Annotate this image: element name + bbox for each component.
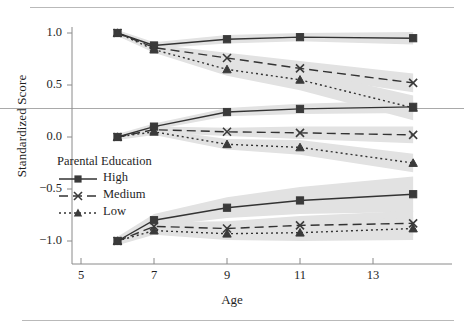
- legend-label: Medium: [103, 187, 145, 202]
- y-tick-label: 1.0: [22, 25, 62, 40]
- x-tick-label: 11: [280, 268, 320, 283]
- x-tick-label: 7: [134, 268, 174, 283]
- legend-label: Low: [103, 204, 126, 219]
- marker-square: [410, 103, 417, 110]
- figure: Standardized Score Age 1.00.50.0−0.5−1.0…: [0, 0, 464, 330]
- legend-marker-square: [74, 175, 81, 182]
- marker-square: [410, 35, 417, 42]
- legend-key-square-icon: [57, 172, 101, 186]
- y-tick-label: −1.0: [22, 233, 62, 248]
- legend-key-triangle-icon: [57, 206, 101, 220]
- marker-square: [223, 36, 230, 43]
- marker-square: [223, 204, 230, 211]
- marker-square: [296, 197, 303, 204]
- legend-key-x-icon: [57, 189, 101, 203]
- x-tick-label: 13: [353, 268, 393, 283]
- y-tick-label: −0.5: [22, 181, 62, 196]
- x-tick-label: 5: [61, 268, 101, 283]
- x-tick-label: 9: [207, 268, 247, 283]
- marker-square: [296, 105, 303, 112]
- marker-square: [296, 34, 303, 41]
- legend-label: High: [103, 170, 128, 185]
- marker-square: [410, 191, 417, 198]
- y-tick-label: 0.0: [22, 129, 62, 144]
- y-tick-label: 0.5: [22, 77, 62, 92]
- marker-square: [150, 217, 157, 224]
- legend-title: Parental Education: [57, 154, 152, 169]
- marker-square: [223, 108, 230, 115]
- x-axis-label: Age: [0, 292, 464, 308]
